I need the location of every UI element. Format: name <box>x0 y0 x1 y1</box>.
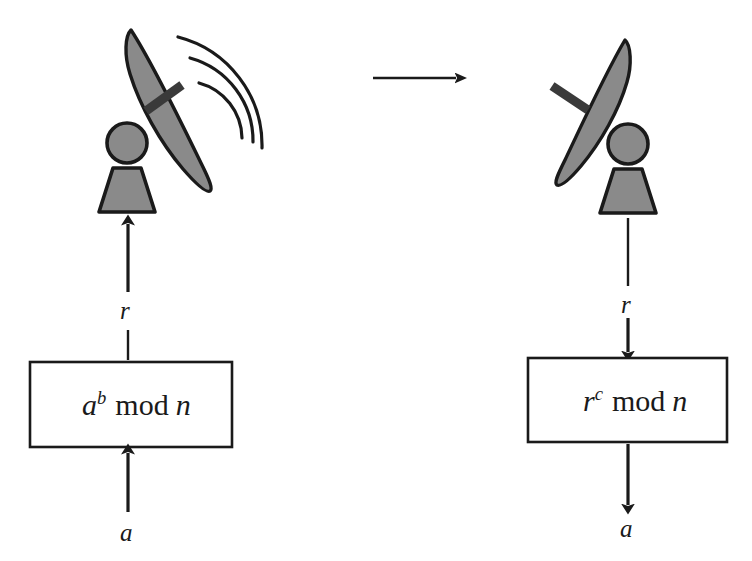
sender-antenna-group <box>99 30 262 212</box>
receiver-head-icon <box>608 124 648 164</box>
right-formula-base: r <box>583 384 595 417</box>
sender-body-icon <box>99 168 155 212</box>
left-box-formula: abmodn <box>82 390 191 420</box>
right-input-label-r: r <box>621 292 631 317</box>
left-output-label-r: r <box>120 298 130 323</box>
right-formula-modulus: n <box>672 384 687 417</box>
left-formula-exponent: b <box>97 387 106 408</box>
right-formula-operator: mod <box>603 384 672 417</box>
radio-waves-icon <box>178 37 262 148</box>
diagram-canvas: abmodn rcmodn r a r a <box>0 0 752 561</box>
right-box-formula: rcmodn <box>583 386 687 416</box>
diagram-graphics <box>0 0 752 561</box>
left-input-label-a: a <box>120 520 133 545</box>
receiver-body-icon <box>600 169 656 213</box>
receiver-antenna-group <box>552 40 656 213</box>
right-formula-exponent: c <box>595 383 603 404</box>
left-formula-modulus: n <box>176 388 191 421</box>
receiver-feed-horn-icon <box>552 86 588 110</box>
left-formula-base: a <box>82 388 97 421</box>
right-output-label-a: a <box>620 516 633 541</box>
left-formula-operator: mod <box>106 388 175 421</box>
sender-head-icon <box>107 123 147 163</box>
